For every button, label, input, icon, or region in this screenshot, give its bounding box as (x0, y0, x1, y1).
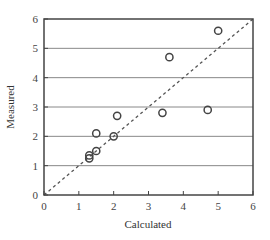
x-tick-label: 3 (146, 200, 152, 212)
x-axis-label: Calculated (124, 218, 172, 230)
scatter-chart: 0123456 0123456 Calculated Measured (0, 0, 270, 240)
x-tick-label: 1 (76, 200, 82, 212)
data-point-marker (166, 54, 173, 61)
y-tick-label: 4 (33, 72, 39, 84)
y-tick-label: 5 (33, 42, 39, 54)
x-tick-label: 4 (181, 200, 187, 212)
y-tick-label: 0 (33, 189, 39, 201)
x-tick-label: 6 (250, 200, 256, 212)
x-tick-label: 0 (41, 200, 47, 212)
y-tick-label: 1 (33, 160, 39, 172)
x-tick-label: 2 (111, 200, 117, 212)
data-point-marker (159, 109, 166, 116)
x-axis-ticks: 0123456 (41, 191, 256, 212)
y-axis-ticks: 0123456 (33, 13, 49, 201)
y-axis-label: Measured (4, 85, 16, 129)
data-point-marker (114, 112, 121, 119)
y-tick-label: 6 (33, 13, 39, 25)
y-tick-label: 3 (33, 101, 39, 113)
data-points (86, 27, 222, 162)
y-tick-label: 2 (33, 130, 39, 142)
data-point-marker (215, 27, 222, 34)
horizontal-gridlines (44, 48, 253, 165)
x-tick-label: 5 (215, 200, 221, 212)
